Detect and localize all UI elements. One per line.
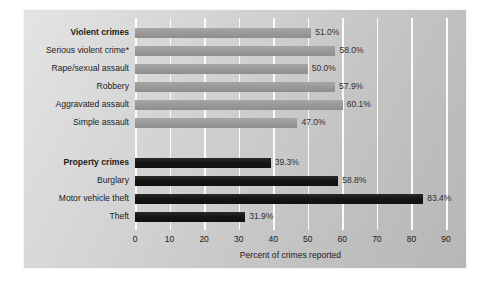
bar-row: 57.9% [135, 82, 446, 92]
bar-value-label: 58.8% [342, 174, 366, 187]
bar-violent [135, 118, 297, 128]
bar-value-label: 39.3% [275, 156, 299, 169]
bar-row: 50.0% [135, 64, 446, 74]
x-tick-label-40: 40 [268, 234, 277, 245]
bar-row: 47.0% [135, 118, 446, 128]
bar-row: 39.3% [135, 158, 446, 168]
tick-mark-20 [204, 224, 206, 230]
bar-row: 60.1% [135, 100, 446, 110]
bar-row: 58.8% [135, 176, 446, 186]
tick-mark-40 [273, 224, 275, 230]
tick-mark-80 [411, 224, 413, 230]
x-axis: 0102030405060708090 Percent of crimes re… [135, 230, 446, 270]
x-tick-label-10: 10 [165, 234, 174, 245]
x-tick-label-70: 70 [372, 234, 381, 245]
category-label: Aggravated assault [0, 99, 129, 110]
bar-violent [135, 64, 308, 74]
tick-mark-60 [342, 224, 344, 230]
category-label-column: Violent crimesSerious violent crime*Rape… [0, 18, 129, 230]
bar-violent [135, 46, 335, 56]
x-tick-label-60: 60 [338, 234, 347, 245]
bar-value-label: 50.0% [312, 62, 336, 75]
category-label: Property crimes [0, 157, 129, 168]
tick-mark-70 [377, 224, 379, 230]
bar-violent [135, 28, 311, 38]
bar-property [135, 176, 338, 186]
bar-row: 51.0% [135, 28, 446, 38]
bar-chart-figure: Violent crimesSerious violent crime*Rape… [0, 0, 491, 285]
bar-value-label: 83.4% [427, 192, 451, 205]
bar-row: 83.4% [135, 194, 446, 204]
chart-panel: Violent crimesSerious violent crime*Rape… [24, 10, 466, 268]
category-label: Burglary [0, 175, 129, 186]
plot-area: Violent crimesSerious violent crime*Rape… [135, 18, 446, 230]
bar-row: 31.9% [135, 212, 446, 222]
x-tick-label-90: 90 [441, 234, 450, 245]
x-axis-title: Percent of crimes reported [135, 250, 446, 260]
tick-mark-0 [135, 224, 137, 230]
category-label: Rape/sexual assault [0, 63, 129, 74]
bar-row: 58.0% [135, 46, 446, 56]
x-tick-label-80: 80 [407, 234, 416, 245]
x-tick-label-50: 50 [303, 234, 312, 245]
bar-violent [135, 82, 335, 92]
bar-property [135, 158, 271, 168]
bar-value-label: 31.9% [249, 210, 273, 223]
bar-value-label: 47.0% [301, 116, 325, 129]
tick-mark-90 [446, 224, 448, 230]
x-tick-label-30: 30 [234, 234, 243, 245]
tick-mark-30 [239, 224, 241, 230]
bar-violent [135, 100, 343, 110]
category-label: Motor vehicle theft [0, 193, 129, 204]
x-tick-label-0: 0 [133, 234, 138, 245]
bar-property [135, 212, 245, 222]
category-label: Simple assault [0, 117, 129, 128]
x-tick-label-20: 20 [199, 234, 208, 245]
tick-mark-10 [170, 224, 172, 230]
bar-value-label: 60.1% [347, 98, 371, 111]
bar-value-label: 57.9% [339, 80, 363, 93]
category-label: Theft [0, 211, 129, 222]
tick-mark-50 [308, 224, 310, 230]
category-label: Violent crimes [0, 27, 129, 38]
bar-value-label: 58.0% [339, 44, 363, 57]
bar-property [135, 194, 423, 204]
category-label: Robbery [0, 81, 129, 92]
bar-value-label: 51.0% [315, 26, 339, 39]
category-label: Serious violent crime* [0, 45, 129, 56]
